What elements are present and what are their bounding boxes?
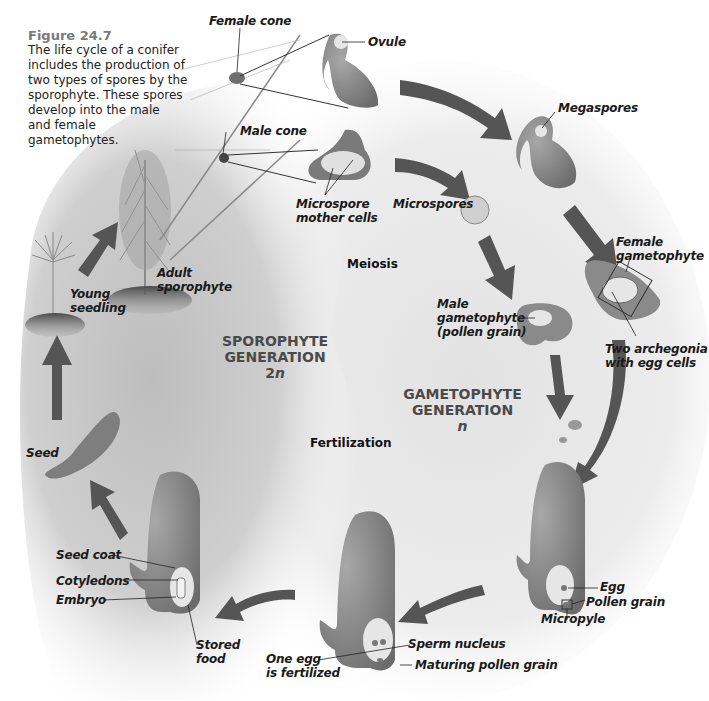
label-line: gametophyte: [616, 249, 704, 263]
pollen-grain-in-micropyle: [563, 602, 569, 606]
seed-label: Seed: [26, 446, 59, 460]
label-line: is fertilized: [266, 666, 340, 680]
megaspores-label: Megaspores: [558, 101, 638, 115]
megaspores: [535, 125, 547, 137]
fertilized-egg: [372, 640, 378, 646]
sporophyte-heading-line1: SPOROPHYTE: [215, 333, 335, 349]
sporophyte-generation-heading: SPOROPHYTE GENERATION 2n: [215, 333, 335, 381]
caption-line: includes the production of: [28, 58, 228, 73]
caption-line: two types of spores by the: [28, 73, 228, 88]
micropyle-label: Micropyle: [541, 612, 605, 626]
second-egg: [380, 639, 386, 645]
gametophyte-ploidy: n: [458, 418, 468, 434]
microspore-mother-cells-label: Microspore mother cells: [296, 197, 377, 225]
embryo-label: Embryo: [56, 593, 106, 607]
label-line: Microspore: [296, 197, 377, 211]
caption-line: develop into the male: [28, 103, 228, 118]
ovule-label: Ovule: [368, 35, 406, 49]
two-archegonia-label: Two archegonia with egg cells: [605, 342, 708, 370]
figure-number: Figure 24.7: [28, 28, 228, 43]
maturing-pollen-grain-label: Maturing pollen grain: [415, 658, 558, 672]
label-line: seedling: [70, 301, 126, 315]
label-line: Adult: [157, 266, 232, 280]
sporophyte-ploidy: 2n: [265, 365, 285, 381]
label-line: Two archegonia: [605, 342, 708, 356]
label-line: One egg: [266, 652, 340, 666]
fertilized-egg-chamber: [363, 618, 393, 662]
seedling-soil: [25, 313, 85, 337]
female-gametophyte-label: Female gametophyte: [616, 235, 704, 263]
female-cone: [229, 72, 245, 84]
young-seedling-label: Young seedling: [70, 287, 126, 315]
male-cone-label: Male cone: [240, 124, 307, 138]
stored-food-label: Stored food: [196, 638, 240, 666]
pollen-grain-falling-2: [559, 437, 567, 443]
caption-line: sporophyte. These spores: [28, 88, 228, 103]
meiosis-label: Meiosis: [347, 257, 398, 271]
female-cone-label: Female cone: [209, 14, 291, 28]
label-line: Young: [70, 287, 126, 301]
adult-sporophyte-label: Adult sporophyte: [157, 266, 232, 294]
caption-line: and female: [28, 118, 228, 133]
egg-label: Egg: [600, 580, 625, 594]
egg: [561, 585, 567, 591]
label-line: with egg cells: [605, 356, 708, 370]
label-line: sporophyte: [157, 280, 232, 294]
label-line: Female: [616, 235, 704, 249]
maturing-pollen-grain: [377, 658, 383, 662]
embryo: [177, 578, 185, 598]
caption-line: The life cycle of a conifer: [28, 43, 228, 58]
pollen-grain-falling-1: [568, 420, 582, 430]
label-line: Stored: [196, 638, 240, 652]
egg-chamber: [546, 565, 574, 605]
gametophyte-generation-heading: GAMETOPHYTE GENERATION n: [400, 386, 525, 434]
sporophyte-heading-line2: GENERATION: [215, 349, 335, 365]
conifer-life-cycle-diagram: Figure 24.7 The life cycle of a conifer …: [0, 0, 709, 701]
fertilization-label: Fertilization: [310, 436, 392, 450]
one-egg-fertilized-label: One egg is fertilized: [266, 652, 340, 680]
caption-line: gametophytes.: [28, 133, 228, 148]
male-gametophyte-label: Male gametophyte (pollen grain): [437, 297, 526, 339]
gametophyte-heading-line2: GENERATION: [400, 402, 525, 418]
label-line: (pollen grain): [437, 325, 526, 339]
cotyledons-label: Cotyledons: [56, 574, 129, 588]
figure-caption: Figure 24.7 The life cycle of a conifer …: [28, 28, 228, 148]
pollen-grain-label: Pollen grain: [586, 595, 665, 609]
male-cone: [219, 153, 229, 163]
label-line: gametophyte: [437, 311, 526, 325]
label-line: Male: [437, 297, 526, 311]
sperm-nucleus-label: Sperm nucleus: [408, 637, 506, 651]
gametophyte-heading-line1: GAMETOPHYTE: [400, 386, 525, 402]
label-line: mother cells: [296, 211, 377, 225]
microspore-mother-cells: [321, 151, 365, 175]
microspores-label: Microspores: [393, 197, 473, 211]
label-line: food: [196, 652, 240, 666]
seed-coat-label: Seed coat: [56, 548, 121, 562]
